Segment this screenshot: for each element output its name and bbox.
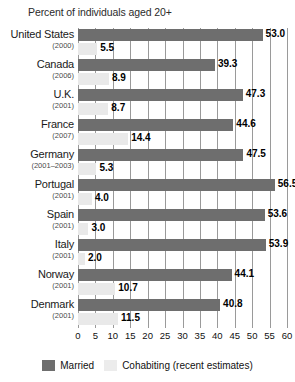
bar-married <box>78 209 265 221</box>
x-axis: 051015202530354045505560 <box>78 330 287 344</box>
x-axis-tick-label: 15 <box>125 330 136 341</box>
category-name: Norway <box>0 269 74 280</box>
bar-value-married: 40.8 <box>223 298 242 310</box>
category-label: United States(2000) <box>0 29 74 50</box>
bar-value-cohabiting: 5.5 <box>100 42 114 54</box>
category-name: Italy <box>0 239 74 250</box>
legend-item: Married <box>42 360 94 371</box>
bar-value-cohabiting: 5.3 <box>99 162 113 174</box>
bar-married <box>78 299 220 311</box>
category-year: (2001) <box>0 102 74 110</box>
bar-married <box>78 239 266 251</box>
chart-title: Percent of individuals aged 20+ <box>28 6 172 18</box>
bar-married <box>78 89 243 101</box>
bar-value-married: 56.5 <box>278 178 295 190</box>
legend-item: Cohabiting (recent estimates) <box>104 360 253 371</box>
x-axis-tick-label: 60 <box>282 330 293 341</box>
x-axis-tick-label: 40 <box>212 330 223 341</box>
x-axis-tick-label: 35 <box>195 330 206 341</box>
x-axis-tick-label: 55 <box>264 330 275 341</box>
bar-cohabiting <box>78 283 115 295</box>
bar-value-married: 39.3 <box>218 58 237 70</box>
category-label: Norway(2001) <box>0 269 74 290</box>
bar-cohabiting <box>78 313 118 325</box>
category-name: Portugal <box>0 179 74 190</box>
bar-value-married: 44.1 <box>235 268 254 280</box>
category-name: Denmark <box>0 299 74 310</box>
bar-married <box>78 179 275 191</box>
category-year: (2001) <box>0 222 74 230</box>
bar-value-married: 53.0 <box>266 28 285 40</box>
bar-group: 47.55.3 <box>78 148 287 178</box>
bar-cohabiting <box>78 163 96 175</box>
bar-group: 56.54.0 <box>78 178 287 208</box>
bar-married <box>78 59 215 71</box>
bar-value-cohabiting: 10.7 <box>118 282 137 294</box>
married-swatch <box>42 360 55 371</box>
bar-cohabiting <box>78 193 92 205</box>
bar-value-cohabiting: 2.0 <box>88 252 102 264</box>
bar-cohabiting <box>78 43 97 55</box>
bar-value-married: 47.5 <box>246 148 265 160</box>
category-label: Italy(2001) <box>0 239 74 260</box>
bar-value-married: 47.3 <box>246 88 265 100</box>
bar-value-cohabiting: 8.7 <box>111 102 125 114</box>
x-axis-tick-label: 5 <box>93 330 98 341</box>
x-axis-tick-label: 30 <box>177 330 188 341</box>
bar-value-cohabiting: 14.4 <box>131 132 150 144</box>
bar-chart: Percent of individuals aged 20+ 53.05.53… <box>0 0 295 382</box>
bar-value-cohabiting: 4.0 <box>95 192 109 204</box>
category-year: (2001) <box>0 252 74 260</box>
category-label: U.K.(2001) <box>0 89 74 110</box>
bar-group: 53.05.5 <box>78 28 287 58</box>
category-label: Canada(2006) <box>0 59 74 80</box>
bar-cohabiting <box>78 73 109 85</box>
x-axis-tick-label: 10 <box>108 330 119 341</box>
category-year: (2001) <box>0 282 74 290</box>
bar-married <box>78 149 243 161</box>
plot-area: 53.05.539.38.947.38.744.614.447.55.356.5… <box>78 28 287 328</box>
x-axis-tick-label: 50 <box>247 330 258 341</box>
category-year: (2001) <box>0 312 74 320</box>
bar-married <box>78 29 263 41</box>
bar-group: 53.63.0 <box>78 208 287 238</box>
bar-cohabiting <box>78 223 88 235</box>
bar-cohabiting <box>78 103 108 115</box>
bar-value-married: 53.9 <box>269 238 288 250</box>
category-year: (2006) <box>0 72 74 80</box>
cohabiting-swatch <box>104 360 117 371</box>
bar-married <box>78 269 232 281</box>
legend-label: Married <box>60 360 94 371</box>
bar-value-cohabiting: 3.0 <box>91 222 105 234</box>
bar-cohabiting <box>78 253 85 265</box>
category-name: France <box>0 119 74 130</box>
legend-label: Cohabiting (recent estimates) <box>122 360 253 371</box>
category-label: France(2007) <box>0 119 74 140</box>
category-name: Germany <box>0 149 74 160</box>
bar-value-married: 44.6 <box>236 118 255 130</box>
chart-legend: MarriedCohabiting (recent estimates) <box>0 360 295 371</box>
bar-group: 47.38.7 <box>78 88 287 118</box>
bar-group: 39.38.9 <box>78 58 287 88</box>
x-axis-tick-label: 45 <box>229 330 240 341</box>
category-label: Spain(2001) <box>0 209 74 230</box>
category-name: Canada <box>0 59 74 70</box>
category-name: United States <box>0 29 74 40</box>
category-name: U.K. <box>0 89 74 100</box>
bar-group: 44.614.4 <box>78 118 287 148</box>
bar-value-cohabiting: 8.9 <box>112 72 126 84</box>
x-axis-tick-label: 20 <box>142 330 153 341</box>
category-name: Spain <box>0 209 74 220</box>
category-year: (2001) <box>0 192 74 200</box>
category-year: (2000) <box>0 42 74 50</box>
category-label: Portugal(2001) <box>0 179 74 200</box>
category-label: Denmark(2001) <box>0 299 74 320</box>
bar-value-married: 53.6 <box>268 208 287 220</box>
x-axis-tick-label: 25 <box>160 330 171 341</box>
bar-value-cohabiting: 11.5 <box>121 312 140 324</box>
bar-married <box>78 119 233 131</box>
category-year: (2007) <box>0 132 74 140</box>
x-axis-tick-label: 0 <box>75 330 80 341</box>
bar-group: 53.92.0 <box>78 238 287 268</box>
bar-cohabiting <box>78 133 128 145</box>
